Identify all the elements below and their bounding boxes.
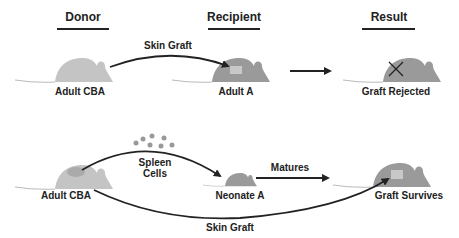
- skin-graft-arrow-row1: [110, 56, 228, 67]
- label-skin-graft-row2: Skin Graft: [206, 222, 254, 233]
- label-result-row1: Graft Rejected: [362, 86, 430, 97]
- spleen-icon: [67, 167, 85, 177]
- donor-mouse-row2: [15, 165, 113, 189]
- graft-patch-row2: [391, 170, 403, 179]
- graft-patch-row1: [230, 66, 242, 74]
- header-result-underline: [362, 28, 415, 30]
- header-recipient-underline: [208, 28, 260, 30]
- recipient-mouse-row1: [172, 58, 270, 82]
- diagram-canvas: [0, 0, 459, 238]
- label-donor-row2: Adult CBA: [41, 190, 91, 201]
- label-skin-graft-row1: Skin Graft: [144, 40, 192, 51]
- label-spleen-line1: Spleen: [139, 157, 172, 168]
- header-result: Result: [371, 10, 408, 24]
- label-result-row2: Graft Survives: [375, 190, 443, 201]
- label-neonate-row2: Neonate A: [215, 190, 264, 201]
- neonate-mouse-row2: [203, 173, 257, 186]
- header-recipient: Recipient: [207, 10, 261, 24]
- header-donor: Donor: [65, 10, 100, 24]
- result-mouse-row1: [343, 58, 441, 82]
- label-donor-row1: Adult CBA: [55, 86, 105, 97]
- header-donor-underline: [57, 28, 109, 30]
- label-spleen-line2: Cells: [143, 168, 167, 179]
- label-matures: Matures: [271, 162, 309, 173]
- label-recipient-row1: Adult A: [218, 86, 253, 97]
- donor-mouse-row1: [15, 58, 113, 82]
- spleen-cells-icon: [134, 134, 175, 149]
